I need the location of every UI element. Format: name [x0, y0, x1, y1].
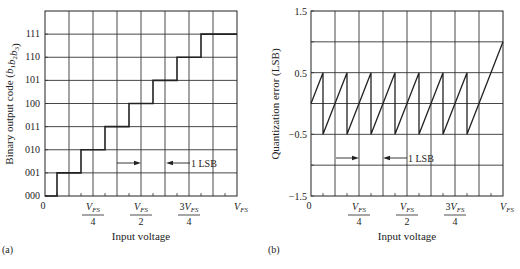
svg-text:VFS: VFS: [234, 201, 248, 214]
svg-text:3VFS: 3VFS: [180, 201, 199, 214]
svg-text:101: 101: [25, 74, 40, 85]
y-axis-label: Quantization error (LSB): [269, 48, 282, 160]
panel-a-label: (a): [2, 244, 13, 256]
svg-text:1 LSB: 1 LSB: [408, 153, 434, 164]
svg-text:2: 2: [139, 216, 144, 227]
svg-text:010: 010: [25, 144, 40, 155]
x-axis-label: Input voltage: [378, 230, 436, 242]
panel-b-error-chart: 0VFS4VFS23VFS4VFSInput voltage1.50.5−0.5…: [269, 6, 514, 242]
svg-text:2: 2: [405, 216, 410, 227]
svg-text:4: 4: [357, 216, 362, 227]
svg-text:0: 0: [41, 200, 46, 211]
svg-text:4: 4: [187, 216, 192, 227]
svg-text:001: 001: [25, 167, 40, 178]
svg-text:111: 111: [26, 28, 40, 39]
svg-text:0.5: 0.5: [295, 68, 308, 79]
svg-text:0: 0: [307, 200, 312, 211]
adc-transfer-figure: 0VFS4VFS23VFS4VFSInput voltage0000010100…: [0, 0, 520, 269]
svg-text:VFS: VFS: [134, 201, 148, 214]
svg-text:3VFS: 3VFS: [446, 201, 465, 214]
svg-text:1 LSB: 1 LSB: [191, 158, 217, 169]
svg-text:VFS: VFS: [400, 201, 414, 214]
svg-text:−1.5: −1.5: [289, 191, 307, 202]
x-axis-label: Input voltage: [112, 230, 170, 242]
svg-text:VFS: VFS: [500, 201, 514, 214]
svg-text:−0.5: −0.5: [289, 129, 307, 140]
svg-text:4: 4: [91, 216, 96, 227]
svg-text:000: 000: [25, 190, 40, 201]
svg-text:011: 011: [25, 121, 40, 132]
lsb-annotation: 1 LSB: [117, 158, 217, 169]
panel-b-label: (b): [268, 244, 280, 256]
panel-a-step-chart: 0VFS4VFS23VFS4VFSInput voltage0000010100…: [3, 11, 248, 242]
lsb-annotation: 1 LSB: [336, 153, 434, 164]
svg-text:1.5: 1.5: [295, 6, 308, 17]
svg-text:100: 100: [25, 98, 40, 109]
svg-text:110: 110: [25, 51, 40, 62]
svg-text:4: 4: [453, 216, 458, 227]
svg-text:VFS: VFS: [86, 201, 100, 214]
svg-text:VFS: VFS: [352, 201, 366, 214]
y-axis-label: Binary output code (b1b2b3): [3, 43, 22, 165]
